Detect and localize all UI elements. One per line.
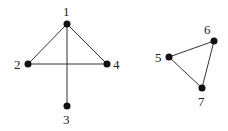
- node-6: [211, 38, 218, 45]
- node-label-3: 3: [63, 112, 70, 127]
- node-label-6: 6: [204, 22, 211, 37]
- node-label-2: 2: [14, 57, 21, 72]
- edge-1-2: [28, 24, 67, 64]
- edges: [28, 24, 214, 106]
- node-label-7: 7: [198, 94, 205, 109]
- node-label-4: 4: [113, 57, 120, 72]
- node-7: [199, 85, 206, 92]
- node-3: [64, 103, 71, 110]
- node-1: [64, 21, 71, 28]
- node-label-5: 5: [155, 50, 162, 65]
- node-2: [25, 61, 32, 68]
- edge-5-7: [169, 57, 202, 88]
- nodes: [25, 21, 218, 110]
- node-5: [166, 54, 173, 61]
- edge-1-4: [67, 24, 107, 64]
- node-4: [104, 61, 111, 68]
- edge-5-6: [169, 41, 214, 57]
- node-labels: 1234567: [14, 4, 211, 127]
- node-label-1: 1: [63, 4, 70, 19]
- edge-6-7: [202, 41, 214, 88]
- graph-diagram: 1234567: [0, 0, 228, 131]
